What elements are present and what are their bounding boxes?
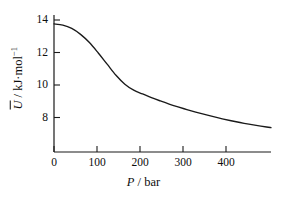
y-axis-separator: / [11, 91, 25, 101]
plot-area [0, 0, 287, 199]
x-axis-unit: bar [144, 175, 160, 189]
x-tick-label-400: 400 [206, 157, 246, 169]
x-axis-separator: / [134, 175, 144, 189]
chart-figure: 14 12 10 8 0 100 200 300 400 P / bar U /… [0, 0, 287, 199]
y-tick-label-10: 10 [24, 79, 48, 91]
x-tick-label-100: 100 [77, 157, 117, 169]
x-axis-title: P / bar [0, 176, 287, 189]
x-tick-marks [54, 146, 226, 152]
y-axis-unit: kJ·mol [11, 56, 25, 91]
x-tick-label-300: 300 [163, 157, 203, 169]
y-tick-label-8: 8 [24, 112, 48, 124]
y-axis-title: U / kJ·mol−1 [12, 8, 25, 148]
y-tick-marks [54, 20, 60, 118]
y-tick-label-14: 14 [24, 14, 48, 26]
x-tick-label-0: 0 [34, 157, 74, 169]
y-axis-symbol: U [11, 101, 25, 110]
x-tick-label-200: 200 [120, 157, 160, 169]
y-axis-unit-exponent: −1 [9, 47, 19, 56]
data-curve-series-0 [54, 24, 271, 128]
axes-group [54, 15, 271, 152]
y-tick-label-12: 12 [24, 47, 48, 59]
